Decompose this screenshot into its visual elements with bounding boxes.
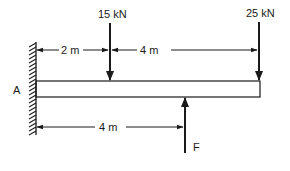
load-25kn-label: 25 kN <box>244 7 277 19</box>
fixed-wall-support <box>29 42 36 135</box>
beam <box>36 81 260 97</box>
load-15kn-label: 15 kN <box>96 8 129 20</box>
dimension-2m-label: 2 m <box>59 44 81 56</box>
beam-diagram: 15 kN 25 kN 2 m 4 m 4 m A F <box>0 0 290 171</box>
dimension-4m-bottom-label: 4 m <box>97 121 119 133</box>
dimension-4m-top-label: 4 m <box>138 44 160 56</box>
support-a-label: A <box>11 84 22 96</box>
reaction-f-label: F <box>191 141 202 153</box>
